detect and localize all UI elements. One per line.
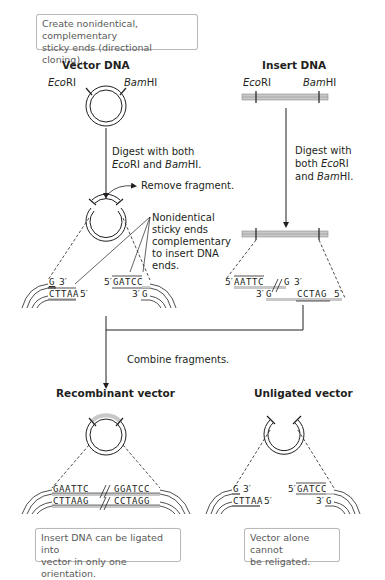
svg-text:5′: 5′ (104, 277, 112, 287)
svg-text:5′: 5′ (225, 277, 233, 287)
unligated-vector-title: Unligated vector (254, 387, 354, 399)
svg-text:GAATTC: GAATTC (53, 484, 89, 494)
insert-sticky-ends: 5′ AATTC G 3′ 3′ G CCTAG 5′ (225, 276, 342, 304)
svg-text:GGATCC: GGATCC (114, 484, 150, 494)
unligated-note: Vector alone cannot be religated. (244, 528, 340, 562)
svg-text:Nonidentical: Nonidentical (152, 212, 215, 223)
svg-text:3′: 3′ (294, 277, 302, 287)
svg-text:AATTC: AATTC (234, 277, 264, 287)
vector-ecori-label: EcoRI (48, 77, 76, 88)
svg-text:5′: 5′ (334, 289, 342, 299)
svg-text:ends.: ends. (152, 260, 179, 271)
svg-text:CCTAG: CCTAG (297, 289, 327, 299)
svg-text:CCTAGG: CCTAGG (114, 496, 150, 506)
unligated-note-line2: be religated. (250, 556, 334, 568)
vector-bamhi-label: BamHI (124, 77, 157, 88)
svg-text:G: G (233, 484, 239, 494)
svg-text:G: G (49, 277, 55, 287)
remove-fragment-label: Remove fragment. (141, 180, 234, 191)
cut-vector-plasmid (86, 194, 126, 241)
vector-digest-line2: EcoRI and BamHI. (112, 159, 201, 170)
svg-text:CTTAA: CTTAA (233, 496, 263, 506)
combine-fragments-label: Combine fragments. (127, 354, 229, 365)
vector-digest-line1: Digest with both (112, 146, 194, 157)
svg-text:5′: 5′ (80, 289, 88, 299)
svg-text:GATCC: GATCC (113, 277, 143, 287)
unligated-left-end: G 3′ CTTAA 5′ (206, 484, 272, 514)
recombinant-note-line2: vector in only one orientation. (41, 556, 175, 580)
remove-fragment-arrow (108, 186, 134, 194)
sticky-ends-callout: Nonidentical sticky ends complementary t… (75, 212, 231, 284)
svg-text:5′: 5′ (288, 484, 296, 494)
recombinant-vector-title: Recombinant vector (56, 387, 176, 399)
vector-plasmid (86, 86, 126, 126)
vector-dna-title: Vector DNA (62, 59, 130, 71)
svg-text:3′: 3′ (59, 277, 67, 287)
svg-text:3′: 3′ (316, 496, 324, 506)
insert-digest-line3: and BamHI. (295, 171, 353, 182)
svg-text:complementary: complementary (152, 236, 231, 247)
cut-insert-bar (242, 228, 328, 240)
insert-dna-title: Insert DNA (262, 59, 327, 71)
svg-text:to insert DNA: to insert DNA (152, 248, 219, 259)
insert-ecori-label: EcoRI (243, 77, 271, 88)
insert-bamhi-label: BamHI (303, 77, 336, 88)
svg-text:5′: 5′ (264, 496, 272, 506)
unligated-note-line1: Vector alone cannot (250, 532, 334, 556)
insert-digest-line2: both EcoRI (295, 158, 349, 169)
svg-text:G: G (326, 496, 332, 506)
unligated-plasmid (264, 416, 304, 454)
svg-text:CTTAAG: CTTAAG (53, 496, 89, 506)
svg-text:G: G (284, 277, 290, 287)
svg-text:GATCC: GATCC (297, 484, 327, 494)
recombinant-junction: GAATTC GGATCC CTTAAG CCTAGG (22, 484, 190, 514)
recombinant-note-line1: Insert DNA can be ligated into (41, 532, 175, 556)
svg-text:CTTAA: CTTAA (49, 289, 79, 299)
recombinant-plasmid (86, 415, 126, 455)
svg-text:G: G (142, 289, 148, 299)
unligated-right-end: 5′ GATCC 3′ G (288, 483, 360, 514)
insert-dna-bar (242, 91, 328, 103)
svg-text:3′: 3′ (132, 289, 140, 299)
svg-text:3′: 3′ (256, 289, 264, 299)
recombinant-note: Insert DNA can be ligated into vector in… (35, 528, 181, 562)
svg-text:3′: 3′ (243, 484, 251, 494)
svg-text:G: G (266, 289, 272, 299)
insert-digest-line1: Digest with (295, 145, 352, 156)
svg-text:sticky ends: sticky ends (152, 224, 208, 235)
vector-right-sticky-end: 5′ GATCC 3′ G (104, 276, 176, 308)
